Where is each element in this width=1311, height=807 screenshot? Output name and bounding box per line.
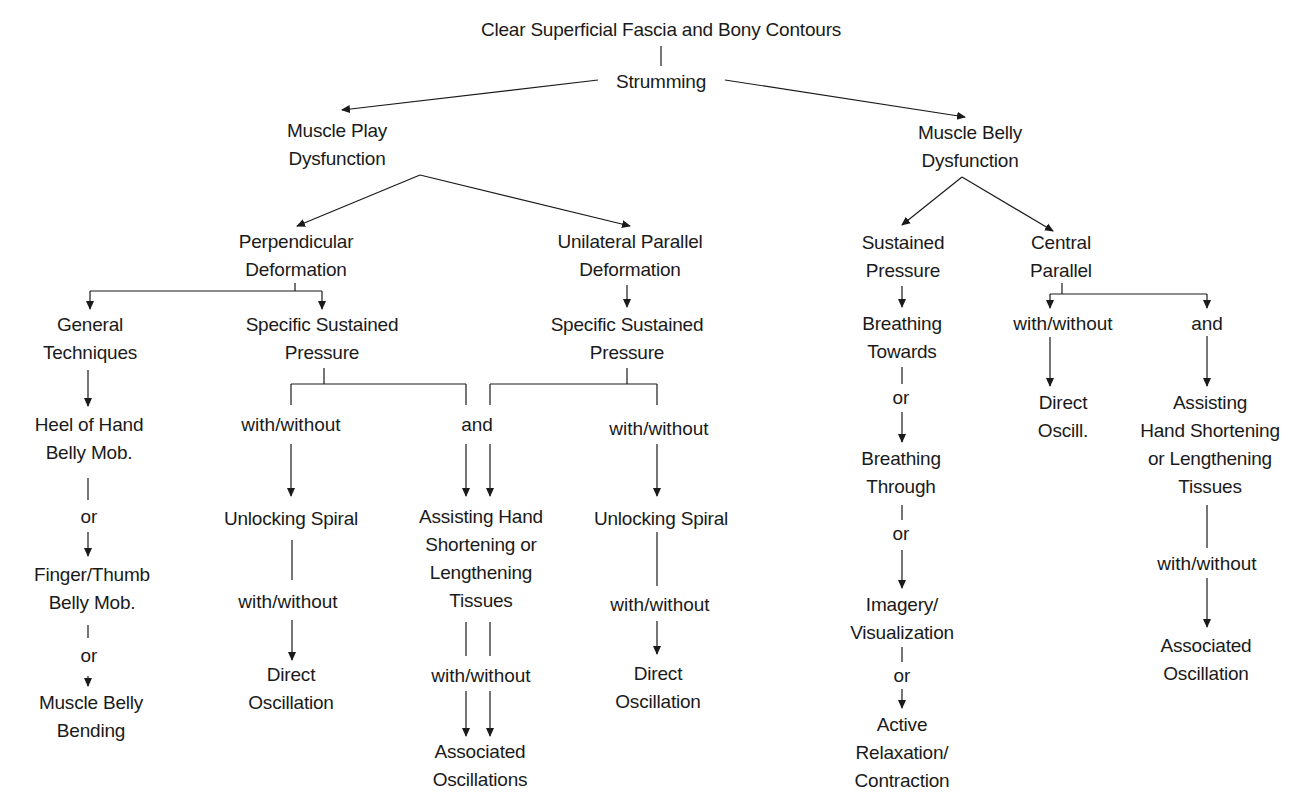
node-label: Muscle Play [287, 117, 387, 145]
node-label: or Lengthening [1140, 445, 1280, 473]
node-label: Muscle Belly [918, 119, 1022, 147]
node-label: Specific Sustained [246, 311, 399, 339]
node-specific-sustained-pressure-left: Specific Sustained Pressure [246, 311, 399, 367]
node-label: Tissues [1140, 473, 1280, 501]
node-perpendicular-deformation: Perpendicular Deformation [239, 228, 354, 284]
conjunction-or: or [81, 644, 98, 668]
node-label: Breathing [861, 445, 941, 473]
node-general-techniques: General Techniques [43, 311, 137, 367]
node-label: Shortening or [419, 531, 543, 559]
node-label: Active [855, 711, 950, 739]
node-imagery-visualization: Imagery/ Visualization [850, 591, 954, 647]
node-label: Imagery/ [850, 591, 954, 619]
conjunction-or: or [81, 505, 98, 529]
node-label: General [43, 311, 137, 339]
node-label: Deformation [239, 256, 354, 284]
node-label: Direct [615, 660, 700, 688]
conjunction-with-without: with/without [610, 593, 709, 617]
node-label: Lengthening [419, 559, 543, 587]
conjunction-with-without: with/without [609, 417, 708, 441]
node-label: Specific Sustained [551, 311, 704, 339]
node-direct-oscillation-right: Direct Oscillation [615, 660, 700, 716]
node-label: Parallel [1030, 257, 1092, 285]
node-associated-oscillation-right: Associated Oscillation [1161, 632, 1252, 688]
node-label: Deformation [557, 256, 702, 284]
conjunction-or: or [894, 664, 911, 688]
node-label: Sustained [862, 229, 945, 257]
node-label: Dysfunction [918, 147, 1022, 175]
node-specific-sustained-pressure-right: Specific Sustained Pressure [551, 311, 704, 367]
node-label: Pressure [862, 257, 945, 285]
conjunction-with-without: with/without [238, 590, 337, 614]
node-finger-thumb-belly-mob: Finger/Thumb Belly Mob. [34, 561, 150, 617]
conjunction-or: or [893, 522, 910, 546]
node-label: Unlocking Spiral [594, 505, 728, 533]
node-central-parallel: Central Parallel [1030, 229, 1092, 285]
node-unlocking-spiral-left: Unlocking Spiral [224, 505, 358, 533]
node-label: Oscill. [1038, 417, 1088, 445]
node-label: Bending [39, 717, 143, 745]
node-label: Oscillation [248, 689, 333, 717]
conjunction-with-without: with/without [431, 664, 530, 688]
node-label: Direct [248, 661, 333, 689]
node-label: Hand Shortening [1140, 417, 1280, 445]
node-unilateral-parallel-deformation: Unilateral Parallel Deformation [557, 228, 702, 284]
node-assisting-hand-center: Assisting Hand Shortening or Lengthening… [419, 503, 543, 615]
node-label: Techniques [43, 339, 137, 367]
conjunction-and: and [1191, 312, 1223, 336]
node-label: Contraction [855, 767, 950, 795]
node-label: Belly Mob. [35, 439, 144, 467]
node-root: Clear Superficial Fascia and Bony Contou… [481, 16, 841, 44]
node-heel-of-hand-belly-mob: Heel of Hand Belly Mob. [35, 411, 144, 467]
node-label: Belly Mob. [34, 589, 150, 617]
node-label: Assisting Hand [419, 503, 543, 531]
node-direct-oscill: Direct Oscill. [1038, 389, 1088, 445]
node-label: Towards [862, 338, 942, 366]
node-label: Pressure [246, 339, 399, 367]
node-muscle-play-dysfunction: Muscle Play Dysfunction [287, 117, 387, 173]
conjunction-with-without: with/without [1013, 312, 1112, 336]
node-associated-oscillations: Associated Oscillations [433, 738, 528, 794]
node-label: Unilateral Parallel [557, 228, 702, 256]
node-label: Associated [1161, 632, 1252, 660]
node-muscle-belly-bending: Muscle Belly Bending [39, 689, 143, 745]
node-label: Associated [433, 738, 528, 766]
node-breathing-through: Breathing Through [861, 445, 941, 501]
node-label: Clear Superficial Fascia and Bony Contou… [481, 16, 841, 44]
node-label: Heel of Hand [35, 411, 144, 439]
node-unlocking-spiral-right: Unlocking Spiral [594, 505, 728, 533]
node-label: Central [1030, 229, 1092, 257]
node-label: Unlocking Spiral [224, 505, 358, 533]
node-assisting-hand-right: Assisting Hand Shortening or Lengthening… [1140, 389, 1280, 501]
node-label: Visualization [850, 619, 954, 647]
node-label: Oscillation [615, 688, 700, 716]
node-sustained-pressure: Sustained Pressure [862, 229, 945, 285]
node-direct-oscillation-left: Direct Oscillation [248, 661, 333, 717]
node-label: Direct [1038, 389, 1088, 417]
node-label: Perpendicular [239, 228, 354, 256]
conjunction-and: and [461, 413, 493, 437]
node-label: Strumming [616, 68, 706, 96]
flowchart: Clear Superficial Fascia and Bony Contou… [0, 0, 1311, 807]
node-active-relaxation-contraction: Active Relaxation/ Contraction [855, 711, 950, 795]
node-label: Oscillations [433, 766, 528, 794]
node-breathing-towards: Breathing Towards [862, 310, 942, 366]
node-label: Finger/Thumb [34, 561, 150, 589]
node-muscle-belly-dysfunction: Muscle Belly Dysfunction [918, 119, 1022, 175]
node-label: Dysfunction [287, 145, 387, 173]
conjunction-with-without: with/without [241, 413, 340, 437]
node-label: Oscillation [1161, 660, 1252, 688]
node-label: Pressure [551, 339, 704, 367]
conjunction-or: or [893, 386, 910, 410]
node-strumming: Strumming [616, 68, 706, 96]
node-label: Tissues [419, 587, 543, 615]
node-label: Through [861, 473, 941, 501]
node-label: Assisting [1140, 389, 1280, 417]
conjunction-with-without: with/without [1157, 552, 1256, 576]
node-label: Muscle Belly [39, 689, 143, 717]
node-label: Relaxation/ [855, 739, 950, 767]
node-label: Breathing [862, 310, 942, 338]
